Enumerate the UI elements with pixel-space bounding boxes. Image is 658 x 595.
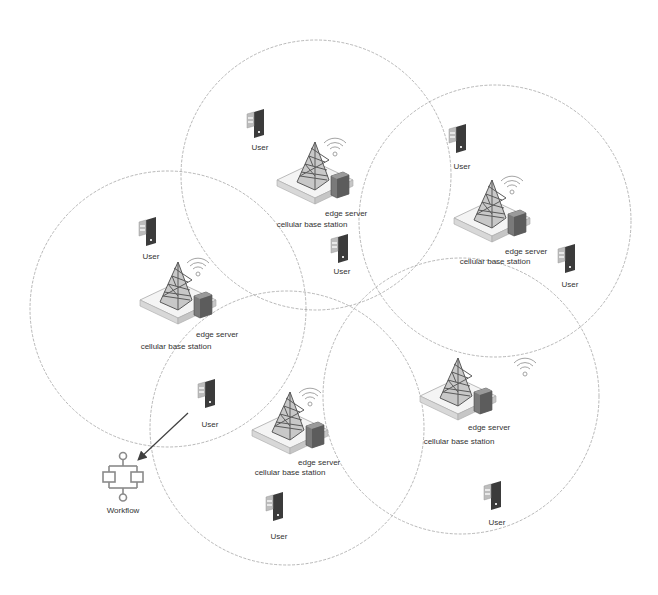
base-station-left bbox=[140, 258, 216, 324]
workflow-label: Workflow bbox=[107, 507, 140, 515]
user-device-icon bbox=[198, 379, 215, 408]
edge-server-label: edge server bbox=[298, 459, 340, 467]
wifi-icon bbox=[187, 258, 209, 276]
base-station-label: cellular base station bbox=[277, 221, 348, 229]
wifi-icon bbox=[299, 388, 321, 406]
user-label: User bbox=[143, 253, 160, 261]
cell-tower-icon bbox=[454, 180, 530, 242]
task-offload-arrow bbox=[139, 413, 188, 459]
cell-tower-icon bbox=[252, 392, 328, 454]
user-device-icon bbox=[449, 124, 466, 153]
user-device-icon bbox=[139, 217, 156, 246]
user-device-icon bbox=[247, 109, 264, 138]
base-station-label: cellular base station bbox=[255, 469, 326, 477]
coverage-areas bbox=[30, 40, 631, 565]
wifi-icon bbox=[501, 176, 523, 194]
cell-tower-icon bbox=[140, 262, 216, 324]
user-label: User bbox=[562, 281, 579, 289]
workflow-icon bbox=[103, 453, 143, 502]
user-label: User bbox=[252, 144, 269, 152]
edge-server-label: edge server bbox=[468, 424, 510, 432]
user-label: User bbox=[334, 268, 351, 276]
base-station-bottom-right bbox=[420, 358, 536, 420]
user-label: User bbox=[454, 163, 471, 171]
base-station-label: cellular base station bbox=[141, 343, 212, 351]
wifi-icon bbox=[324, 138, 346, 156]
cell-tower-icon bbox=[277, 142, 353, 204]
user-label: User bbox=[202, 421, 219, 429]
base-station-top bbox=[277, 138, 353, 204]
user-device-icon bbox=[484, 481, 501, 510]
cell-tower-icon bbox=[420, 358, 496, 420]
user-device-icon bbox=[266, 492, 283, 521]
base-station-label: cellular base station bbox=[424, 438, 495, 446]
user-label: User bbox=[271, 533, 288, 541]
edge-server-label: edge server bbox=[505, 248, 547, 256]
edge-server-label: edge server bbox=[325, 210, 367, 218]
user-device-icon bbox=[331, 234, 348, 263]
user-label: User bbox=[489, 519, 506, 527]
base-station-bottom-middle bbox=[252, 388, 328, 454]
user-device-icon bbox=[558, 244, 575, 273]
base-station-right bbox=[454, 176, 530, 242]
edge-server-label: edge server bbox=[196, 331, 238, 339]
base-station-label: cellular base station bbox=[460, 258, 531, 266]
wifi-icon bbox=[514, 358, 536, 376]
edge-network-diagram bbox=[0, 0, 658, 595]
